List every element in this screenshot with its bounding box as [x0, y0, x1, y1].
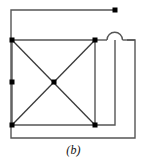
hop-layer [107, 32, 135, 40]
figure-container: (b) [0, 0, 147, 164]
wire-crossing-hop-icon [107, 32, 123, 40]
vertex-square-bottom-left [10, 123, 15, 128]
vertex-left-edge-midpoint [10, 80, 15, 85]
vertex-square-top-left [10, 38, 15, 43]
vertex-square-top-right [93, 38, 98, 43]
vertex-top-terminal [113, 8, 118, 13]
vertex-layer [10, 8, 118, 128]
path-layer [11, 10, 135, 138]
vertex-square-bottom-right [93, 123, 98, 128]
inner-u-path [95, 40, 115, 125]
figure-caption: (b) [0, 143, 147, 158]
graph-diagram [0, 0, 147, 164]
vertex-diagonal-crossing-center [52, 80, 57, 85]
outer-circuit-path [11, 10, 135, 138]
